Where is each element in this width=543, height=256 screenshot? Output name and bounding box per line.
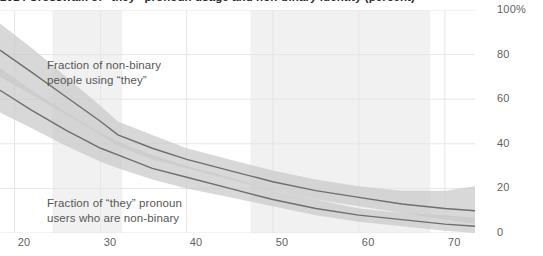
y-axis-tick-labels: 020406080100% [497,0,543,256]
y-tick-label-20: 20 [497,181,510,193]
chart-container: 2014 Crosswalk of “they” pronoun usage a… [0,0,543,256]
x-tick-label-20: 20 [18,236,31,248]
y-tick-label-80: 80 [497,48,510,60]
annotation-they-users-non-binary: Fraction of “they” pronoun users who are… [47,196,247,225]
x-tick-label-30: 30 [104,236,117,248]
x-tick-label-60: 60 [362,236,375,248]
chart-title: 2014 Crosswalk of “they” pronoun usage a… [0,0,430,5]
x-axis-tick-labels: 203040506070 [0,236,500,256]
y-tick-label-40: 40 [497,137,510,149]
x-tick-label-50: 50 [276,236,289,248]
annotation-non-binary-using-they: Fraction of non-binary people using “the… [47,58,227,87]
x-tick-label-40: 40 [190,236,203,248]
y-tick-label-60: 60 [497,92,510,104]
x-tick-label-70: 70 [448,236,461,248]
y-tick-label-0: 0 [497,226,503,238]
y-tick-label-100pct: 100% [497,3,526,15]
